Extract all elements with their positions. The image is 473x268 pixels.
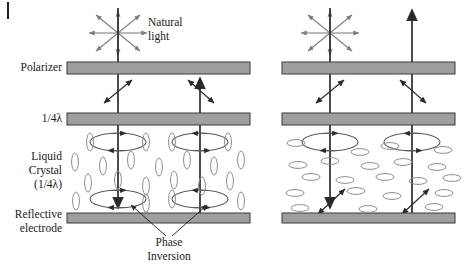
quarter-wave-bar-right: [282, 113, 455, 125]
quarter-wave-bar-left: [67, 113, 250, 125]
natural-light-label-line1: Natural: [148, 16, 218, 29]
liquid-crystal-molecules-right: [286, 140, 461, 213]
lcd-phase-inversion-figure: Polarizer 1/4λ Liquid Crystal (1/4λ) Ref…: [0, 0, 473, 268]
bright-state-panel: [282, 8, 461, 223]
liquid-crystal-label-line1: Liquid: [0, 150, 62, 163]
polarization-arrow-left-up: [188, 80, 214, 103]
polarizer-label: Polarizer: [0, 61, 62, 74]
liquid-crystal-label-line2: Crystal: [0, 164, 62, 177]
phase-inversion-label-line1: Phase: [129, 236, 209, 249]
polarization-arrow-right-up: [400, 80, 426, 103]
phase-inversion-label-line2: Inversion: [129, 250, 209, 263]
natural-light-label-line2: light: [148, 30, 218, 43]
reflective-electrode-bar-right: [282, 213, 455, 223]
reflective-electrode-label-line2: electrode: [0, 222, 62, 235]
reflective-electrode-label-line1: Reflective: [0, 208, 62, 221]
liquid-crystal-molecules-left: [72, 133, 245, 212]
liquid-crystal-label-line3: (1/4λ): [0, 178, 62, 191]
reflective-electrode-bar-left: [67, 213, 250, 223]
polarizer-bar-left: [67, 62, 250, 74]
polarizer-bar-right: [282, 62, 455, 74]
polarization-arrow-right-lower-2: [402, 189, 429, 214]
quarter-wave-label: 1/4λ: [0, 112, 62, 125]
polarization-arrow-right-lower-1: [318, 189, 345, 214]
diagram-canvas: [0, 0, 473, 268]
